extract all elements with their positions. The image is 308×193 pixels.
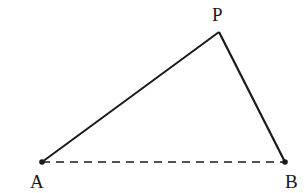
point-a-dot [39, 159, 45, 165]
triangle-diagram: P A B [0, 0, 308, 193]
label-a: A [30, 171, 44, 192]
point-b-dot [282, 159, 288, 165]
label-p: P [212, 4, 223, 25]
edge-pb [219, 32, 285, 162]
edge-ap [42, 32, 219, 162]
label-b: B [285, 171, 298, 192]
